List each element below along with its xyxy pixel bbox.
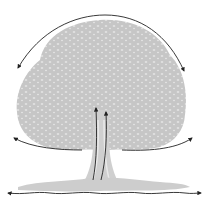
tree-diagram bbox=[0, 0, 210, 202]
ground-roots bbox=[18, 177, 190, 191]
tree-illustration bbox=[0, 0, 210, 202]
ground-arrow bbox=[8, 192, 201, 193]
